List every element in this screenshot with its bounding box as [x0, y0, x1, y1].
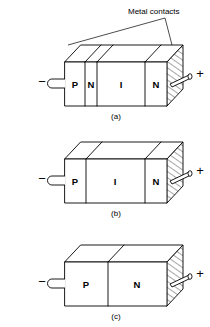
diagram-b-left-lead-wire	[48, 176, 66, 185]
diagram-a-region-label-2: N	[88, 79, 95, 90]
diagram-b-caption: (b)	[111, 209, 121, 218]
diagram-b-region-label-2: I	[114, 176, 117, 187]
diagram-c-region-label-2: N	[134, 279, 141, 290]
diagram-c-positive-terminal: +	[196, 266, 204, 281]
diagram-c-region-label-1: P	[83, 279, 90, 290]
metal-contacts-annotation: Metal contacts	[68, 7, 180, 45]
diagram-a-negative-terminal: −	[38, 74, 46, 89]
diagram-a-positive-terminal: +	[196, 66, 204, 81]
diagram-a-region-label-1: P	[72, 79, 79, 90]
diagram-b-negative-terminal: −	[38, 171, 46, 186]
diagram-a-left-lead-wire	[48, 79, 66, 88]
diagram-b-region-label-1: P	[72, 176, 79, 187]
diagram-c: P N − + (c)	[38, 245, 204, 321]
figure-root: Metal contacts P N	[0, 0, 210, 327]
diagram-c-front-face	[65, 262, 167, 306]
diagram-c-top-face	[65, 245, 183, 262]
diagram-a-top-face	[65, 45, 183, 62]
pin-diode-structures-figure: Metal contacts P N	[0, 0, 210, 327]
diagram-a-caption: (a)	[111, 112, 121, 121]
diagram-b: P I N − + (b)	[38, 142, 204, 218]
diagram-a: P N I N − + (a)	[38, 45, 204, 121]
diagram-b-top-face	[65, 142, 183, 159]
leader-line-right	[165, 18, 172, 45]
diagram-b-positive-terminal: +	[196, 163, 204, 178]
diagram-a-region-label-4: N	[153, 79, 160, 90]
leader-line-left	[68, 18, 165, 45]
diagram-a-region-label-3: I	[120, 79, 123, 90]
diagram-c-negative-terminal: −	[38, 274, 46, 289]
metal-contacts-label: Metal contacts	[128, 7, 180, 16]
diagram-b-region-label-3: N	[153, 176, 160, 187]
diagram-c-caption: (c)	[111, 312, 121, 321]
diagram-c-left-lead-wire	[48, 279, 66, 288]
